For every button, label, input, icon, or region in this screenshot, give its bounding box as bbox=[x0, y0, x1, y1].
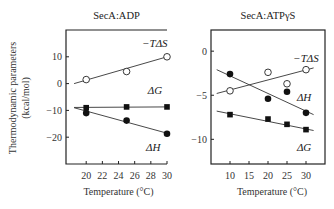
x-tick-label: 20 bbox=[263, 170, 273, 181]
y-tick-label: −20 bbox=[46, 132, 62, 143]
x-tick-label: 10 bbox=[225, 170, 235, 181]
panel-secA-atpgs: SecA:ATPγS0−5−101015202530Temperature (°… bbox=[191, 10, 325, 198]
data-point-open-circle bbox=[303, 66, 310, 73]
x-tick-label: 30 bbox=[162, 170, 172, 181]
data-point-filled-circle bbox=[83, 110, 90, 117]
data-point-filled-square bbox=[83, 105, 89, 111]
y-tick-label: 0 bbox=[57, 78, 62, 89]
series-open-circle bbox=[74, 54, 170, 84]
data-point-open-circle bbox=[164, 54, 171, 61]
panel-title: SecA:ATPγS bbox=[241, 10, 296, 21]
x-tick-label: 25 bbox=[282, 170, 292, 181]
y-tick-label: −10 bbox=[191, 134, 207, 145]
series-filled-square bbox=[74, 104, 170, 110]
data-point-open-circle bbox=[123, 68, 130, 75]
x-axis-title: Temperature (°C) bbox=[83, 186, 153, 198]
y-axis-title-line2: (kcal/mol) bbox=[20, 77, 32, 119]
x-tick-label: 28 bbox=[146, 170, 156, 181]
series-label: ΔG bbox=[147, 84, 162, 96]
data-point-open-circle bbox=[265, 69, 272, 76]
figure: Thermodynamic parameters (kcal/mol) SecA… bbox=[0, 0, 334, 209]
data-point-filled-circle bbox=[303, 110, 310, 117]
series-filled-circle bbox=[74, 108, 170, 137]
data-point-filled-circle bbox=[284, 88, 291, 95]
data-point-filled-circle bbox=[227, 71, 234, 78]
data-point-filled-circle bbox=[265, 95, 272, 102]
series-open-circle bbox=[217, 66, 314, 94]
data-point-filled-square bbox=[265, 116, 271, 122]
x-tick-label: 20 bbox=[81, 170, 91, 181]
series-label: ΔH bbox=[145, 141, 161, 153]
data-point-filled-square bbox=[303, 127, 309, 133]
x-axis-title: Temperature (°C) bbox=[237, 186, 307, 198]
x-tick-label: 22 bbox=[97, 170, 107, 181]
y-tick-label: 10 bbox=[52, 51, 62, 62]
y-tick-label: −5 bbox=[196, 90, 207, 101]
data-point-filled-square bbox=[124, 104, 130, 110]
y-tick-label: −10 bbox=[46, 105, 62, 116]
panel-title: SecA:ADP bbox=[93, 10, 140, 21]
data-point-filled-circle bbox=[164, 130, 171, 137]
x-tick-label: 15 bbox=[244, 170, 254, 181]
series-filled-square bbox=[217, 111, 314, 132]
series-label: −TΔS bbox=[142, 37, 168, 49]
data-point-filled-circle bbox=[123, 117, 130, 124]
x-tick-label: 30 bbox=[301, 170, 311, 181]
series-label: ΔH bbox=[296, 91, 312, 103]
panel-secA-adp: SecA:ADP100−10−20202224262830Temperature… bbox=[46, 10, 172, 198]
data-point-open-circle bbox=[227, 88, 234, 95]
series-label: −TΔS bbox=[293, 52, 319, 64]
data-point-open-circle bbox=[284, 80, 291, 87]
series-label: ΔG bbox=[296, 141, 311, 153]
x-tick-label: 24 bbox=[114, 170, 124, 181]
y-axis-title-line1: Thermodynamic parameters bbox=[7, 42, 18, 155]
data-point-filled-square bbox=[284, 122, 290, 128]
data-point-open-circle bbox=[83, 76, 90, 83]
y-tick-label: 0 bbox=[202, 46, 207, 57]
x-tick-label: 26 bbox=[130, 170, 140, 181]
data-point-filled-square bbox=[227, 112, 233, 118]
data-point-filled-square bbox=[164, 104, 170, 110]
